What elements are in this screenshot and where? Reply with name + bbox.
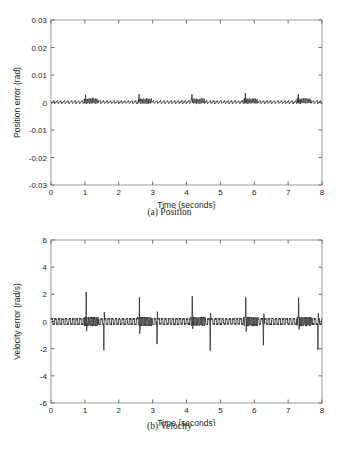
y-tick-label: 0 [43,99,48,108]
cropped-footer-text [8,444,333,448]
y-tick-label: -0.03 [29,181,48,190]
figure-container: 012345678-0.03-0.02-0.0100.010.020.03Tim… [0,0,339,453]
caption-velocity: (b) Velocity [0,421,339,431]
x-tick-label: 1 [83,188,88,197]
x-tick-label: 0 [49,406,54,415]
y-tick-label: -0.02 [29,154,48,163]
x-tick-label: 5 [218,406,223,415]
y-tick-label: -4 [40,372,48,381]
x-tick-label: 7 [286,406,291,415]
x-tick-label: 3 [150,406,155,415]
velocity-error-chart: 012345678-6-4-20246Time (seconds)Velocit… [0,226,339,426]
y-tick-label: 4 [43,263,48,272]
x-tick-label: 4 [184,406,189,415]
y-tick-label: 0 [43,318,48,327]
position-error-chart: 012345678-0.03-0.02-0.0100.010.020.03Tim… [0,0,339,226]
x-tick-label: 6 [252,406,257,415]
x-tick-label: 7 [286,188,291,197]
x-tick-label: 8 [320,406,325,415]
y-tick-label: 6 [43,236,48,245]
cropped-footer-strip [0,444,339,453]
x-tick-label: 5 [218,188,223,197]
y-tick-label: -2 [40,345,48,354]
x-tick-label: 8 [320,188,325,197]
y-tick-label: -6 [40,399,48,408]
y-axis-label: Velocity error (rad/s) [12,283,22,360]
x-tick-label: 3 [150,188,155,197]
x-tick-label: 2 [117,406,122,415]
y-tick-label: 2 [43,290,48,299]
y-tick-label: -0.01 [29,126,48,135]
y-tick-label: 0.01 [31,71,47,80]
x-tick-label: 1 [83,406,88,415]
y-axis-label: Position error (rad) [12,67,22,138]
chart-panel-position: 012345678-0.03-0.02-0.0100.010.020.03Tim… [0,0,339,226]
x-tick-label: 4 [184,188,189,197]
y-tick-label: 0.02 [31,44,47,53]
x-tick-label: 2 [117,188,122,197]
x-tick-label: 6 [252,188,257,197]
y-tick-label: 0.03 [31,16,47,25]
chart-panel-velocity: 012345678-6-4-20246Time (seconds)Velocit… [0,226,339,426]
x-tick-label: 0 [49,188,54,197]
caption-position: (a) Position [0,207,339,217]
